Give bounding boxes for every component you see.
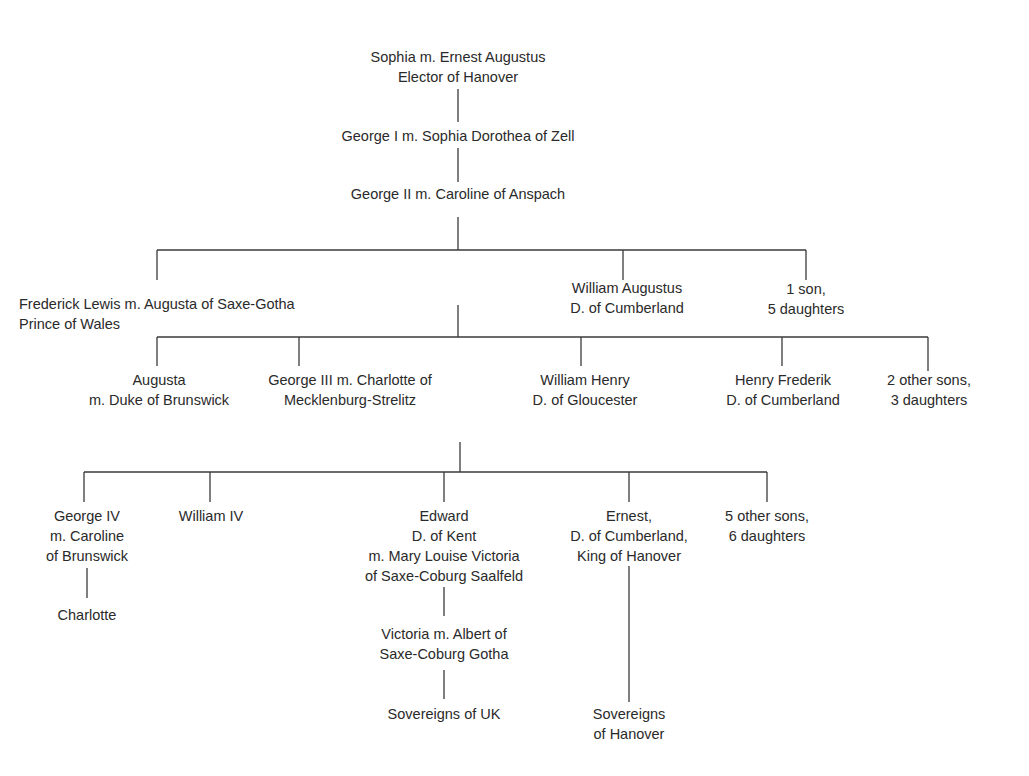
- family-tree-diagram: Sophia m. Ernest Augustus Elector of Han…: [0, 0, 1029, 776]
- node-edward: Edward D. of Kent m. Mary Louise Victori…: [365, 506, 523, 586]
- node-text: William Henry: [533, 370, 638, 390]
- node-augusta: Augusta m. Duke of Brunswick: [89, 370, 229, 410]
- node-text: Victoria m. Albert of: [380, 624, 509, 644]
- node-text: King of Hanover: [570, 546, 688, 566]
- node-text: Frederick Lewis m. Augusta of Saxe-Gotha: [19, 294, 295, 314]
- node-victoria: Victoria m. Albert of Saxe-Coburg Gotha: [380, 624, 509, 664]
- node-text: of Brunswick: [46, 546, 128, 566]
- node-text: Edward: [365, 506, 523, 526]
- node-text: 3 daughters: [887, 390, 971, 410]
- node-text: 5 other sons,: [725, 506, 809, 526]
- node-george-ii: George II m. Caroline of Anspach: [351, 184, 565, 204]
- node-sophia: Sophia m. Ernest Augustus Elector of Han…: [371, 47, 546, 87]
- node-text: D. of Cumberland: [570, 298, 684, 318]
- node-text: D. of Gloucester: [533, 390, 638, 410]
- node-george-iii: George III m. Charlotte of Mecklenburg-S…: [268, 370, 432, 410]
- node-other-children-frederick: 2 other sons, 3 daughters: [887, 370, 971, 410]
- node-sovereigns-hanover: Sovereigns of Hanover: [593, 704, 666, 744]
- node-william-iv: William IV: [179, 506, 243, 526]
- node-text: D. of Cumberland: [726, 390, 840, 410]
- node-george-i: George I m. Sophia Dorothea of Zell: [342, 126, 575, 146]
- node-text: Mecklenburg-Strelitz: [268, 390, 432, 410]
- node-sovereigns-uk: Sovereigns of UK: [388, 704, 501, 724]
- node-text: m. Duke of Brunswick: [89, 390, 229, 410]
- node-charlotte: Charlotte: [58, 605, 117, 625]
- node-william-henry: William Henry D. of Gloucester: [533, 370, 638, 410]
- node-henry-frederik: Henry Frederik D. of Cumberland: [726, 370, 840, 410]
- node-william-augustus: William Augustus D. of Cumberland: [570, 278, 684, 318]
- node-text: Sophia m. Ernest Augustus: [371, 47, 546, 67]
- node-text: Prince of Wales: [19, 314, 295, 334]
- node-text: George IV: [46, 506, 128, 526]
- node-text: 2 other sons,: [887, 370, 971, 390]
- node-text: Saxe-Coburg Gotha: [380, 644, 509, 664]
- node-text: 5 daughters: [768, 299, 845, 319]
- node-text: 6 daughters: [725, 526, 809, 546]
- node-text: Augusta: [89, 370, 229, 390]
- node-text: D. of Cumberland,: [570, 526, 688, 546]
- node-other-children-george-iii: 5 other sons, 6 daughters: [725, 506, 809, 546]
- node-text: of Hanover: [593, 724, 666, 744]
- node-text: Charlotte: [58, 605, 117, 625]
- node-text: Elector of Hanover: [371, 67, 546, 87]
- node-ernest: Ernest, D. of Cumberland, King of Hanove…: [570, 506, 688, 566]
- node-text: Henry Frederik: [726, 370, 840, 390]
- node-text: Sovereigns: [593, 704, 666, 724]
- node-george-iv: George IV m. Caroline of Brunswick: [46, 506, 128, 566]
- node-text: Sovereigns of UK: [388, 704, 501, 724]
- node-text: m. Caroline: [46, 526, 128, 546]
- node-text: 1 son,: [768, 279, 845, 299]
- node-text: m. Mary Louise Victoria: [365, 546, 523, 566]
- node-text: William Augustus: [570, 278, 684, 298]
- node-text: William IV: [179, 506, 243, 526]
- node-other-children-george-ii: 1 son, 5 daughters: [768, 279, 845, 319]
- node-text: George II m. Caroline of Anspach: [351, 184, 565, 204]
- node-text: Ernest,: [570, 506, 688, 526]
- node-text: George III m. Charlotte of: [268, 370, 432, 390]
- node-frederick-lewis: Frederick Lewis m. Augusta of Saxe-Gotha…: [19, 294, 295, 334]
- node-text: of Saxe-Coburg Saalfeld: [365, 566, 523, 586]
- node-text: George I m. Sophia Dorothea of Zell: [342, 126, 575, 146]
- node-text: D. of Kent: [365, 526, 523, 546]
